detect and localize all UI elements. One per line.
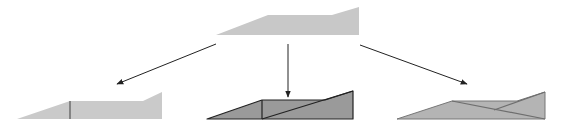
arrow-to-left — [117, 44, 216, 84]
arrow-to-right — [360, 45, 467, 84]
source-ramp — [216, 7, 359, 35]
ramp-split-vertical-diagonal — [207, 91, 353, 119]
ramp-split-vertical — [17, 92, 162, 119]
diagram-canvas — [0, 0, 562, 128]
ramp-split-crossing-diagonals — [397, 92, 545, 119]
